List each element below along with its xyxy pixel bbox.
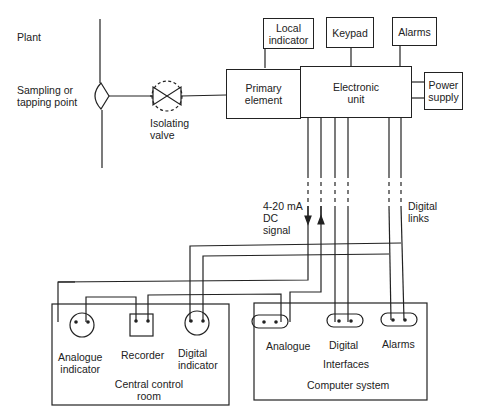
recorder-icon [130, 314, 153, 336]
analogue-interface-icon [252, 315, 288, 328]
sampling-point-symbol [95, 83, 109, 109]
digital-interface-icon [327, 314, 363, 327]
alarms-interface-icon [381, 313, 417, 326]
interfaces-label: Interfaces [323, 358, 369, 370]
analogue-indicator-icon [70, 313, 94, 337]
analogue-interface-label: Analogue [266, 340, 310, 352]
isolating-valve-label: Isolating valve [150, 117, 189, 141]
computer-system-label: Computer system [307, 379, 389, 391]
electronic-unit-box: Electronic unit [300, 66, 412, 118]
alarms-interface-label: Alarms [382, 338, 415, 350]
power-supply-box: Power supply [424, 72, 463, 110]
alarms-box: Alarms [392, 17, 437, 46]
digital-links-label: Digital links [408, 200, 437, 224]
isolating-valve-icon [150, 81, 226, 111]
keypad-label: Keypad [332, 27, 368, 39]
digital-indicator-label: Digital indicator [178, 347, 218, 371]
local-indicator-box: Local indicator [263, 18, 314, 49]
analogue-indicator-label: Analogue indicator [58, 351, 102, 375]
primary-element-box: Primary element [226, 69, 301, 119]
central-control-room-label: Central control room [104, 378, 194, 402]
sampling-point-label: Sampling or tapping point [17, 84, 77, 108]
electronic-unit-label: Electronic unit [333, 81, 379, 105]
plant-label: Plant [17, 31, 41, 43]
primary-element-label: Primary element [245, 82, 282, 106]
power-supply-label: Power supply [428, 79, 458, 103]
digital-indicator-icon [185, 311, 209, 335]
local-indicator-label: Local indicator [269, 22, 309, 46]
signal-cables [58, 117, 404, 322]
digital-interface-label: Digital [329, 339, 358, 351]
analogue-signal-label: 4-20 mA DC signal [263, 200, 303, 236]
keypad-box: Keypad [326, 17, 374, 48]
recorder-label: Recorder [121, 349, 164, 361]
alarms-label: Alarms [398, 26, 431, 38]
